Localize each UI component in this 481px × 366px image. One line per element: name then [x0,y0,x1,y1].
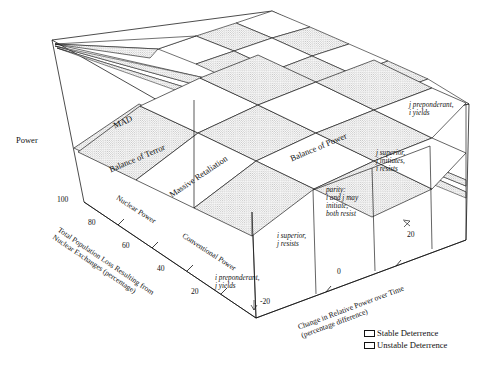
right-axis-tick-neg20: -20 [260,298,270,307]
legend-label-unstable-deterrence: Unstable Deterrence [377,340,447,350]
left-axis-tick-20: 20 [191,288,199,297]
legend: Stable Deterrence Unstable Deterrence [364,328,447,352]
annotation-j-superior-j-initiates-i-resists: j superior, j initiates, i resists [376,149,405,173]
figure-3d-surface-plot: Power 100 80 60 40 20 Total Population L… [0,0,481,366]
legend-label-stable-deterrence: Stable Deterrence [377,328,438,338]
unstable-deterrence-swatch-icon [364,342,375,349]
annotation-parity-both-resist: parity: i and j may initiate, both resis… [326,186,358,218]
right-axis-tick-20: 20 [407,231,415,240]
annotation-i-preponderant-j-yields: i preponderant, j yields [215,274,259,290]
right-axis-tick-0: 0 [337,268,341,277]
legend-item-stable-deterrence: Stable Deterrence [364,328,447,338]
axis-label-power: Power [16,136,38,146]
annotation-i-superior-j-resists: i superior, j resists [277,232,306,248]
annotation-j-preponderant-i-yields: j preponderant, i yields [409,101,453,117]
left-axis-tick-100: 100 [57,196,68,205]
stable-deterrence-swatch-icon [364,330,375,337]
legend-item-unstable-deterrence: Unstable Deterrence [364,340,447,350]
